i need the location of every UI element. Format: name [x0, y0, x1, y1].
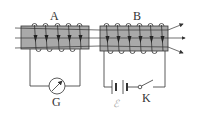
circuit-b — [104, 51, 165, 94]
battery-icon — [112, 80, 127, 94]
coil-b-label: B — [133, 9, 141, 23]
switch-label: K — [142, 91, 151, 105]
coil-a: A — [21, 9, 89, 52]
battery-label: ℰ — [113, 98, 120, 109]
wire-b — [104, 51, 165, 87]
coil-a-label: A — [50, 9, 59, 23]
induction-diagram: A B G — [0, 0, 199, 120]
switch-icon — [138, 80, 153, 89]
circuit-a — [30, 49, 80, 94]
galvanometer-label: G — [52, 95, 61, 109]
